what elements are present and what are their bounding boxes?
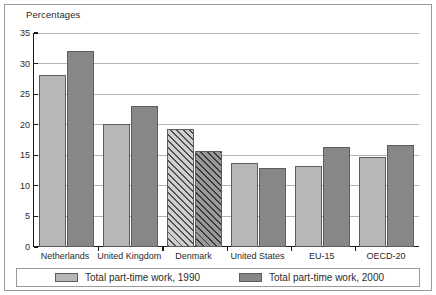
bar-group — [34, 33, 98, 247]
y-axis-tick-label: 25 — [20, 89, 30, 99]
bar — [167, 129, 194, 247]
y-axis-tick-label: 0 — [25, 242, 30, 252]
chart-figure: Percentages 05101520253035 NetherlandsUn… — [0, 0, 436, 295]
bar — [39, 75, 66, 247]
legend-label: Total part-time work, 1990 — [85, 272, 200, 283]
x-axis-tick-label: Netherlands — [41, 251, 90, 261]
bar-group — [162, 33, 226, 247]
bar — [323, 147, 350, 247]
y-axis-tick-label: 15 — [20, 150, 30, 160]
bar — [195, 151, 222, 247]
y-axis-tick-label: 5 — [25, 211, 30, 221]
legend-item: Total part-time work, 1990 — [55, 269, 200, 286]
bar — [295, 166, 322, 247]
bar — [359, 157, 386, 247]
chart-axis-unit-title: Percentages — [26, 9, 80, 20]
bar-group — [355, 33, 419, 247]
bar — [131, 106, 158, 247]
bar — [231, 163, 258, 247]
x-axis-tick-label: EU-15 — [309, 251, 335, 261]
y-axis-tick-label: 10 — [20, 181, 30, 191]
legend-label: Total part-time work, 2000 — [269, 272, 384, 283]
y-axis-labels: 05101520253035 — [6, 33, 30, 247]
x-axis-tick-label: Denmark — [175, 251, 212, 261]
bar-group — [291, 33, 355, 247]
x-axis-labels: NetherlandsUnited KingdomDenmarkUnited S… — [33, 251, 419, 265]
legend-swatch-icon — [239, 273, 262, 282]
y-axis-tick-label: 35 — [20, 28, 30, 38]
bar — [387, 145, 414, 247]
chart-legend: Total part-time work, 1990Total part-tim… — [16, 268, 420, 287]
x-axis-tick-label: United States — [231, 251, 285, 261]
bar-group — [227, 33, 291, 247]
bar-group — [98, 33, 162, 247]
bar — [103, 124, 130, 248]
y-axis-tick-label: 30 — [20, 59, 30, 69]
y-axis-tick-label: 20 — [20, 120, 30, 130]
legend-item: Total part-time work, 2000 — [239, 269, 384, 286]
legend-swatch-icon — [55, 273, 78, 282]
x-axis-tick-label: United Kingdom — [97, 251, 161, 261]
x-axis-tick-label: OECD-20 — [366, 251, 405, 261]
plot-area — [33, 33, 419, 247]
bar — [67, 51, 94, 247]
bar — [259, 168, 286, 247]
